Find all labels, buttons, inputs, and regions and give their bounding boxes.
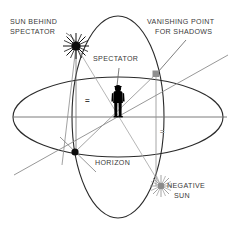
label-spectator: SPECTATOR	[93, 55, 138, 63]
sun-starburst-icon	[63, 33, 89, 59]
label-negative-sun-line2: SUN	[174, 192, 190, 200]
spectator-figure-icon	[111, 85, 124, 117]
equal-mark-left: =	[85, 96, 90, 105]
label-sun-behind-spectator-line2: SPECTATOR	[10, 28, 55, 36]
label-sun-behind-spectator-line1: SUN BEHIND	[10, 18, 57, 26]
shadow-foot-dot-marker	[71, 148, 78, 155]
label-vanishing-point-line1: VANISHING POINT	[147, 18, 215, 26]
diagram-canvas: SUN BEHIND SPECTATOR VANISHING POINT FOR…	[0, 0, 239, 225]
perspective-shadow-diagram: SUN BEHIND SPECTATOR VANISHING POINT FOR…	[0, 0, 239, 225]
vanishing-point-leader-line	[158, 40, 186, 72]
label-vanishing-point-line2: FOR SHADOWS	[155, 28, 212, 36]
equal-mark-right: =	[160, 127, 165, 136]
label-horizon: HORIZON	[95, 159, 130, 167]
vanishing-point-square-marker	[153, 71, 160, 78]
label-negative-sun-line1: NEGATIVE	[167, 182, 205, 190]
